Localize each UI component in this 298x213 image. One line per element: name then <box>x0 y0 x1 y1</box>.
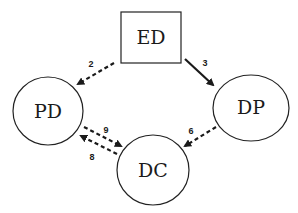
edge-dc-pd: 8 <box>81 136 117 162</box>
edge-dc-pd-label: 8 <box>89 152 94 162</box>
edge-pd-dc: 9 <box>84 125 121 146</box>
node-dp-label: DP <box>237 96 265 118</box>
edge-dp-dc-label: 6 <box>188 126 193 136</box>
edge-pd-dc-label: 9 <box>103 125 108 135</box>
edge-dp-dc: 6 <box>185 126 216 146</box>
edge-ed-pd-arrow <box>78 63 114 84</box>
edge-ed-dp: 3 <box>185 58 213 85</box>
node-dc: DC <box>117 135 189 205</box>
edge-ed-pd-label: 2 <box>88 59 93 69</box>
node-dp: DP <box>213 75 289 141</box>
edge-ed-dp-arrow <box>185 59 213 85</box>
edge-ed-dp-label: 3 <box>202 58 207 68</box>
edge-dc-pd-arrow <box>81 136 117 154</box>
node-pd: PD <box>13 77 83 145</box>
node-ed: ED <box>121 12 181 63</box>
diagram: ED PD DP DC 2 3 6 8 9 <box>0 0 298 213</box>
node-pd-label: PD <box>34 100 62 122</box>
edge-ed-pd: 2 <box>78 59 114 84</box>
node-dc-label: DC <box>138 159 168 181</box>
node-ed-label: ED <box>136 26 165 48</box>
